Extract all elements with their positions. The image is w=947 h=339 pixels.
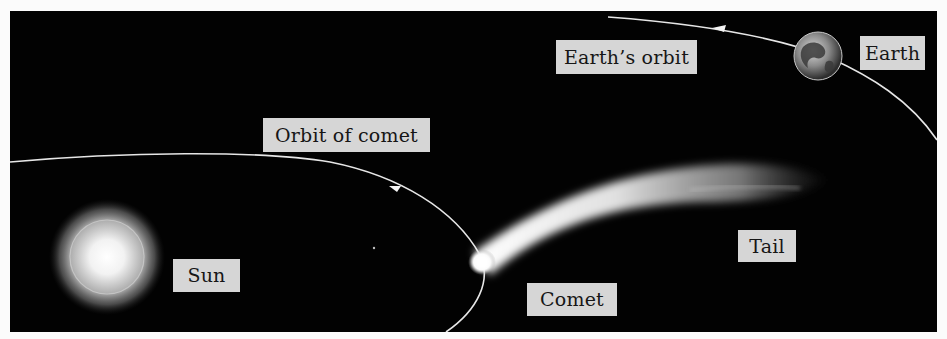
label-sun: Sun: [173, 259, 240, 292]
diagram-canvas: [10, 11, 937, 332]
space-background: [10, 11, 937, 332]
label-earths-orbit: Earth’s orbit: [556, 40, 697, 74]
diagram-figure: Earth’s orbit Earth Orbit of comet Sun T…: [0, 0, 947, 339]
comet-orbit-arrow-icon: [389, 186, 401, 192]
sun-glow: [49, 199, 165, 315]
label-comet: Comet: [527, 283, 617, 316]
earths-orbit-arrow-icon: [712, 25, 726, 32]
star-speck: [373, 247, 375, 249]
comet-head-core: [473, 253, 491, 271]
label-tail: Tail: [738, 230, 796, 262]
label-earth: Earth: [860, 36, 925, 70]
label-orbit-of-comet: Orbit of comet: [263, 118, 430, 152]
